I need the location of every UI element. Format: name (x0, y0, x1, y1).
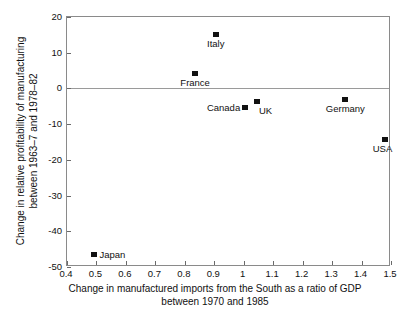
data-point-label: Germany (326, 103, 365, 114)
y-tick (67, 53, 71, 54)
y-tick (67, 88, 71, 89)
y-tick-label: -10 (48, 118, 62, 129)
x-tick (391, 261, 392, 265)
x-axis-title-line-2: between 1970 and 1985 (40, 295, 390, 308)
data-point-marker (192, 71, 198, 76)
y-tick-label: -20 (48, 153, 62, 164)
y-axis-title-line-1: Change in relative profitability of manu… (14, 16, 27, 266)
data-point-marker (382, 137, 388, 142)
x-axis-title: Change in manufactured imports from the … (40, 282, 390, 308)
data-point-marker (254, 99, 260, 104)
x-tick-label: 1.5 (383, 268, 396, 279)
x-tick-label: 0.9 (207, 268, 220, 279)
x-tick-label: 0.5 (89, 268, 102, 279)
y-tick (67, 231, 71, 232)
data-point-marker (91, 252, 97, 257)
y-axis-title: Change in relative profitability of manu… (14, 16, 42, 266)
data-point-marker (242, 105, 248, 110)
y-tick-label: 0 (57, 82, 62, 93)
y-tick-label: -30 (48, 189, 62, 200)
y-tick (67, 17, 71, 18)
x-tick (332, 261, 333, 265)
x-tick-label: 0.8 (177, 268, 190, 279)
x-tick (155, 261, 156, 265)
x-tick (244, 261, 245, 265)
x-tick (273, 261, 274, 265)
x-tick-label: 0.6 (118, 268, 131, 279)
x-tick-label: 1.4 (354, 268, 367, 279)
x-tick (126, 261, 127, 265)
y-tick-label: -40 (48, 225, 62, 236)
x-tick (303, 261, 304, 265)
x-tick-label: 1.1 (266, 268, 279, 279)
data-point-label: Japan (100, 249, 126, 260)
scatter-chart-figure: JapanFranceItalyCanadaUKGermanyUSA 0.40.… (0, 0, 413, 316)
x-tick-label: 0.7 (148, 268, 161, 279)
x-axis-title-line-1: Change in manufactured imports from the … (40, 282, 390, 295)
y-tick-label: 10 (51, 46, 62, 57)
x-tick-label: 1.2 (295, 268, 308, 279)
y-tick-label: -50 (48, 261, 62, 272)
data-point-marker (213, 32, 219, 37)
data-point-marker (342, 97, 348, 102)
y-tick (67, 124, 71, 125)
y-tick (67, 196, 71, 197)
x-tick (362, 261, 363, 265)
data-point-label: Italy (207, 38, 224, 49)
data-point-label: USA (373, 143, 393, 154)
x-tick (67, 261, 68, 265)
data-point-label: Canada (207, 102, 240, 113)
data-point-label: France (180, 77, 210, 88)
y-tick-label: 20 (51, 11, 62, 22)
y-tick (67, 160, 71, 161)
x-tick-label: 1.3 (324, 268, 337, 279)
x-tick (185, 261, 186, 265)
y-axis-title-line-2: between 1963–7 and 1978–82 (27, 16, 40, 266)
zero-reference-line (67, 88, 389, 89)
x-tick (214, 261, 215, 265)
plot-area: JapanFranceItalyCanadaUKGermanyUSA (66, 16, 390, 266)
data-point-label: UK (259, 105, 272, 116)
x-tick-label: 1 (240, 268, 245, 279)
x-tick (96, 261, 97, 265)
